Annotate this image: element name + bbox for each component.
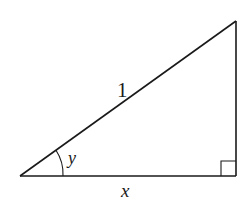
triangle-diagram: 1 y x — [0, 0, 251, 206]
angle-label: y — [66, 148, 76, 168]
hypotenuse — [20, 21, 236, 176]
angle-arc — [56, 150, 63, 176]
base-label: x — [120, 180, 130, 201]
hypotenuse-label: 1 — [117, 78, 128, 102]
right-angle-marker — [221, 161, 236, 176]
